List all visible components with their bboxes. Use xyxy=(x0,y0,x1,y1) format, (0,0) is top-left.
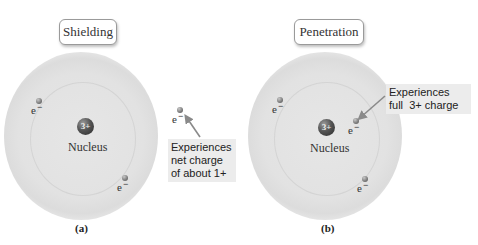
nucleus-label: Nucleus xyxy=(68,140,107,155)
nucleus: 3+ xyxy=(318,119,335,136)
callout-penetration: Experiences full 3+ charge xyxy=(386,84,471,114)
electron: e − xyxy=(272,97,286,117)
callout-shielding: Experiences net charge of about 1+ xyxy=(168,139,236,182)
nucleus-charge: 3+ xyxy=(322,122,332,132)
nucleus-charge: 3+ xyxy=(81,121,91,131)
panel-shielding: Shielding 3+ Nucleus e − e − e − Experie… xyxy=(0,0,239,245)
caption-b: (b) xyxy=(321,222,334,234)
electron: e − xyxy=(117,175,131,195)
panel-penetration: Penetration 3+ Nucleus e − e − e − Exper… xyxy=(239,0,478,245)
electron: e − xyxy=(357,176,371,196)
electron-outer: e − xyxy=(172,107,186,127)
panel-title-shielding: Shielding xyxy=(59,19,117,45)
caption-a: (a) xyxy=(75,222,88,234)
panel-title-penetration: Penetration xyxy=(294,19,364,45)
nucleus-label: Nucleus xyxy=(310,141,349,156)
nucleus: 3+ xyxy=(77,118,94,135)
electron-penetrating: e − xyxy=(348,118,362,138)
electron: e − xyxy=(31,98,45,118)
